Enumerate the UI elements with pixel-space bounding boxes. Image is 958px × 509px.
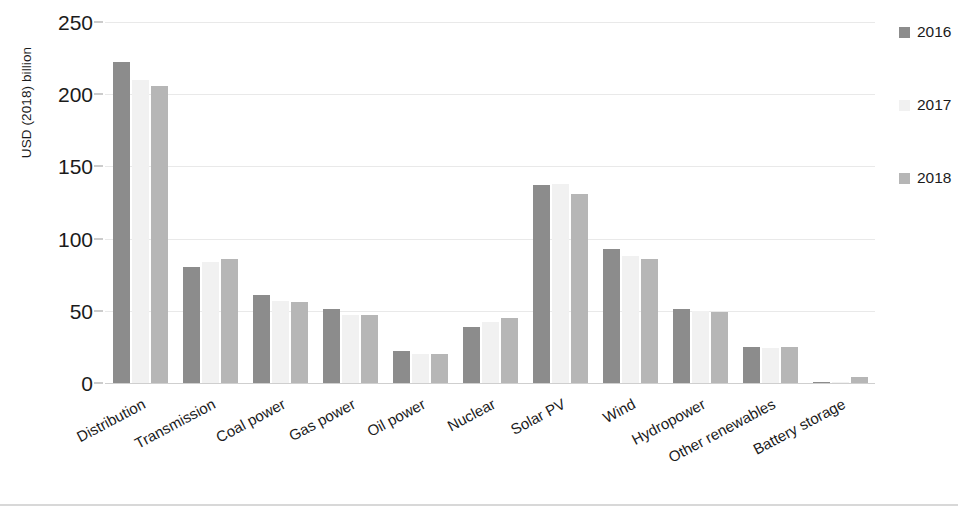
x-label-cell: Wind [595,389,665,499]
bar [183,267,200,383]
y-tick-label: 250 [58,12,93,33]
legend-label: 2017 [917,97,951,113]
legend-item[interactable]: 2017 [899,97,958,113]
y-tick-mark [94,310,103,311]
y-axis-title: USD (2018) billion [19,3,34,203]
x-label-cell: Coal power [245,389,315,499]
x-label-cell: Battery storage [805,389,875,499]
legend-swatch-icon [899,100,910,111]
bar-group [525,22,595,383]
gridline [105,383,875,384]
x-axis-labels: DistributionTransmissionCoal powerGas po… [105,389,875,499]
x-label-cell: Gas power [315,389,385,499]
y-tick-mark [94,94,103,95]
bar [641,259,658,383]
legend-item[interactable]: 2018 [899,170,958,186]
x-label-cell: Transmission [175,389,245,499]
bar-group [665,22,735,383]
plot-area: 050100150200250 [105,22,875,383]
bar [202,262,219,383]
bar [501,318,518,383]
bar [291,302,308,383]
bar-group [805,22,875,383]
bar-group [105,22,175,383]
bar [851,377,868,383]
y-tick-label: 150 [58,156,93,177]
bar-group [245,22,315,383]
bar [781,347,798,383]
y-tick-label: 50 [70,300,93,321]
bar-group [175,22,245,383]
bar [482,322,499,383]
x-axis-label: Wind [600,395,638,426]
x-label-cell: Nuclear [455,389,525,499]
bar [132,80,149,383]
bar-group [455,22,525,383]
y-tick-label: 0 [81,373,93,394]
bar [552,184,569,383]
y-tick-mark [94,166,103,167]
bar-group [595,22,665,383]
chart-legend: 201620172018 [899,24,958,243]
legend-label: 2018 [917,170,951,186]
legend-item[interactable]: 2016 [899,24,958,40]
y-tick-mark [94,22,103,23]
legend-swatch-icon [899,173,910,184]
bar [431,354,448,383]
bar [113,62,130,383]
y-tick-label: 100 [58,228,93,249]
x-label-cell: Solar PV [525,389,595,499]
bar [603,249,620,383]
bar [571,194,588,383]
legend-label: 2016 [917,24,951,40]
bar [151,86,168,383]
bar [692,311,709,383]
bar-chart: USD (2018) billion 050100150200250 Distr… [0,0,958,509]
bar [361,315,378,383]
bar-group [315,22,385,383]
y-tick-mark [94,383,103,384]
bar [711,312,728,383]
y-tick-label: 200 [58,84,93,105]
bar [323,309,340,383]
bar-group [385,22,455,383]
bar [832,382,849,383]
bottom-divider [0,504,958,506]
bar-group [735,22,805,383]
bar [673,309,690,383]
bar [622,256,639,383]
bar [533,185,550,383]
x-label-cell: Oil power [385,389,455,499]
bar [813,382,830,383]
bar [762,348,779,383]
bar [743,347,760,383]
bar [221,259,238,383]
bar [463,327,480,383]
bar [412,354,429,383]
legend-swatch-icon [899,27,910,38]
bar [393,351,410,383]
bar [272,301,289,383]
bar-groups [105,22,875,383]
y-tick-mark [94,238,103,239]
bar [253,295,270,383]
bar [342,315,359,383]
